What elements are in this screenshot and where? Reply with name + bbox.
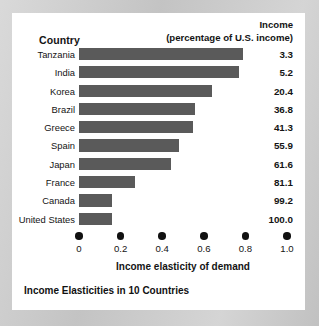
axis-tick-dot (242, 232, 250, 240)
column-header-country: Country (39, 34, 80, 46)
chart-caption: Income Elasticities in 10 Countries (24, 285, 189, 296)
axis-tick-dot (283, 232, 291, 240)
bar-row-income-value: 20.4 (241, 86, 293, 97)
bar-row-label: Korea (12, 86, 75, 97)
column-header-income-line1: Income (166, 19, 293, 32)
bar-row-income-value: 41.3 (241, 122, 293, 133)
bar-row: Spain55.9 (12, 137, 305, 155)
bar (79, 103, 195, 115)
bar-row-income-value: 100.0 (241, 214, 293, 225)
bar-row: Brazil36.8 (12, 101, 305, 119)
plot-area: Country Income (percentage of U.S. incom… (12, 13, 305, 310)
bar-row-income-value: 99.2 (241, 195, 293, 206)
axis-tick-label: 0.4 (142, 243, 182, 254)
bar-row: France81.1 (12, 174, 305, 192)
bar (79, 66, 239, 78)
axis-tick-label: 0.8 (225, 243, 265, 254)
bar-row: India5.2 (12, 64, 305, 82)
bar (79, 139, 179, 151)
bar-row: United States100.0 (12, 211, 305, 229)
figure-root: Country Income (percentage of U.S. incom… (0, 0, 319, 326)
axis-tick-dot (75, 232, 83, 240)
bar-row-label: Japan (12, 159, 75, 170)
bar (79, 85, 212, 97)
bar-row-income-value: 55.9 (241, 140, 293, 151)
bar-row-label: France (12, 177, 75, 188)
bar-row-income-value: 3.3 (241, 49, 293, 60)
bar-row: Greece41.3 (12, 119, 305, 137)
bar-row: Korea20.4 (12, 83, 305, 101)
bar (79, 194, 112, 206)
bar-row-label: Tanzania (12, 49, 75, 60)
bar-row-income-value: 5.2 (241, 67, 293, 78)
axis-tick-label: 1.0 (267, 243, 307, 254)
column-header-income: Income (percentage of U.S. income) (166, 19, 293, 44)
bar-row: Tanzania3.3 (12, 46, 305, 64)
axis-tick-dot (117, 232, 125, 240)
bar-row: Canada99.2 (12, 192, 305, 210)
axis-tick-label: 0.2 (101, 243, 141, 254)
bar-row-income-value: 36.8 (241, 104, 293, 115)
bar-row-income-value: 81.1 (241, 177, 293, 188)
bar (79, 48, 243, 60)
bar-rows: Tanzania3.3India5.2Korea20.4Brazil36.8Gr… (12, 46, 305, 229)
bar-row-label: Brazil (12, 104, 75, 115)
bar-row-income-value: 61.6 (241, 159, 293, 170)
bar-row-label: Canada (12, 195, 75, 206)
bar-row-label: Spain (12, 140, 75, 151)
axis-tick-label: 0 (59, 243, 99, 254)
chart-card: Country Income (percentage of U.S. incom… (12, 13, 305, 310)
bar (79, 121, 193, 133)
bar-row: Japan61.6 (12, 156, 305, 174)
bar (79, 158, 171, 170)
bar-row-label: United States (12, 214, 75, 225)
x-axis-title: Income elasticity of demand (79, 261, 287, 272)
bar (79, 213, 112, 225)
axis-tick-dot (200, 232, 208, 240)
axis-tick-label: 0.6 (184, 243, 224, 254)
bar-row-label: India (12, 67, 75, 78)
bar (79, 176, 135, 188)
axis-tick-dot (158, 232, 166, 240)
bar-row-label: Greece (12, 122, 75, 133)
column-header-income-line2: (percentage of U.S. income) (166, 32, 293, 45)
